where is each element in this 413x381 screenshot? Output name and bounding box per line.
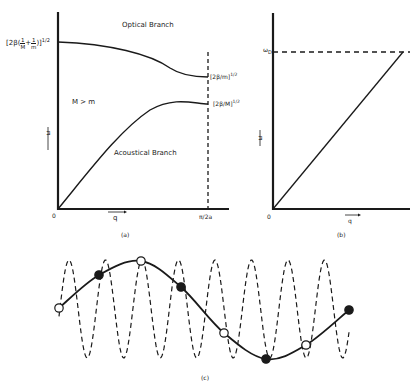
filled-atom-marker — [95, 271, 103, 279]
panel-b-x-axis-symbol: q — [348, 218, 352, 224]
subscript-d: D — [268, 49, 272, 55]
optical-top-frequency-label: [2β(1M+1m)]1/2 — [6, 37, 50, 50]
panel-a-origin-label: 0 — [52, 213, 56, 219]
optical-branch-label: Optical Branch — [122, 22, 174, 29]
panel-a-caption: (a) — [121, 232, 129, 238]
debye-frequency-label: ωD — [263, 47, 272, 55]
acoustical-branch-label: Acoustical Branch — [114, 150, 177, 157]
panel-a-y-axis-symbol: ω — [45, 130, 51, 135]
zone-boundary-label: π/2a — [199, 214, 212, 220]
panel-c-caption: (c) — [201, 375, 209, 381]
panel-a-x-axis-symbol: q — [113, 215, 117, 222]
panel-c-graphics — [55, 257, 353, 363]
panel-b-origin-label: 0 — [267, 214, 271, 220]
filled-atom-marker — [262, 355, 270, 363]
acoustic-edge-frequency-label: [2β/M]1/2 — [213, 100, 240, 107]
panel-b-y-axis-symbol: ω — [257, 135, 263, 140]
open-atom-marker — [302, 341, 310, 349]
debye-linear-dispersion — [273, 52, 403, 209]
figure-canvas — [0, 0, 413, 381]
optical-edge-frequency-label: [2β/m]1/2 — [210, 73, 237, 80]
optical-top-prefix: [2β( — [6, 39, 20, 47]
optical-branch-curve — [58, 42, 208, 77]
open-atom-marker — [137, 257, 145, 265]
panel-b-caption: (b) — [337, 232, 346, 238]
acoustic-edge-text: [2β/M] — [213, 100, 233, 107]
exponent: 1/2 — [233, 99, 240, 104]
open-atom-marker — [55, 304, 63, 312]
panel-b-x-arrowhead-icon — [358, 214, 361, 217]
exponent: 1/2 — [42, 37, 50, 43]
open-atom-marker — [220, 329, 228, 337]
filled-atom-marker — [177, 283, 185, 291]
mass-condition-label: M > m — [72, 99, 95, 106]
optical-edge-text: [2β/m] — [210, 73, 230, 80]
panel-b-graphics — [260, 13, 410, 217]
exponent: 1/2 — [230, 72, 237, 77]
atom-markers — [55, 257, 353, 363]
panel-a-graphics — [48, 12, 229, 214]
filled-atom-marker — [345, 306, 353, 314]
panel-a-x-arrowhead-icon — [124, 211, 127, 214]
